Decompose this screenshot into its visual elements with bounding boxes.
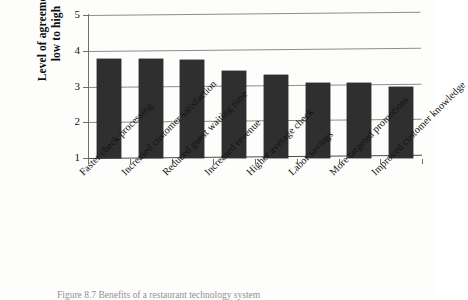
x-tick-mark <box>422 159 423 164</box>
x-category-label: Faster check processing <box>77 100 154 177</box>
x-category-label: More targeted promotions <box>327 94 411 178</box>
x-category-label: Reduced guest waiting time <box>160 88 249 177</box>
figure-caption: Figure 8.7 Benefits of a restaurant tech… <box>57 290 260 300</box>
